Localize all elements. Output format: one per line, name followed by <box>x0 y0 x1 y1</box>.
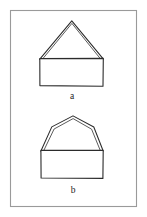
figure-canvas: a b <box>0 0 147 217</box>
figure-b-body <box>41 150 103 178</box>
figure-b-label: b <box>71 185 76 195</box>
figure-a-body <box>40 58 104 86</box>
figure-page: a b <box>0 0 147 217</box>
